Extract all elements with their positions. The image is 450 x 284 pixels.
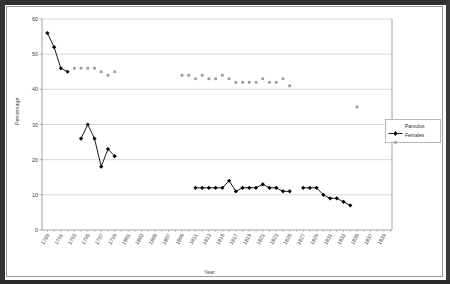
- scan-edge-left: [0, 0, 5, 284]
- chart-plot-area: 0102030405060178917911793179517971799180…: [7, 7, 444, 278]
- data-point: [107, 74, 110, 77]
- y-tick-label: 20: [32, 157, 38, 163]
- y-tick-label: 40: [32, 86, 38, 92]
- x-tick-label: 1831: [322, 232, 333, 245]
- legend-key-parvulos-diamond-icon: [388, 123, 403, 130]
- data-point: [261, 182, 265, 186]
- data-point: [65, 70, 69, 74]
- data-point: [348, 203, 352, 207]
- data-point: [328, 196, 332, 200]
- data-point: [240, 186, 244, 190]
- data-point: [247, 186, 251, 190]
- scan-edge-bottom: [0, 280, 450, 284]
- data-point: [93, 67, 96, 70]
- x-tick-label: 1815: [214, 232, 225, 245]
- data-point: [228, 77, 231, 80]
- y-tick-label: 10: [32, 192, 38, 198]
- series-parvulos: [45, 31, 352, 208]
- data-point: [335, 196, 339, 200]
- data-point: [194, 77, 197, 80]
- data-point: [86, 122, 90, 126]
- legend-label-females: Females: [405, 132, 424, 139]
- data-point: [282, 77, 285, 80]
- x-tick-label: 1793: [66, 232, 77, 245]
- data-point: [99, 165, 103, 169]
- data-point: [208, 77, 211, 80]
- data-point: [193, 186, 197, 190]
- x-tick-label: 1789: [39, 232, 50, 245]
- x-tick-label: 1817: [228, 232, 239, 245]
- x-tick-label: 1827: [295, 232, 306, 245]
- x-tick-label: 1811: [188, 232, 199, 245]
- data-point: [80, 67, 83, 70]
- x-tick-label: 1823: [268, 232, 279, 245]
- scan-edge-right: [446, 0, 450, 284]
- data-point: [341, 200, 345, 204]
- data-point: [234, 81, 237, 84]
- data-point: [113, 70, 116, 73]
- x-tick-label: 1807: [161, 232, 172, 245]
- data-point: [100, 70, 103, 73]
- legend-key-females-square-icon: [388, 132, 403, 139]
- data-point: [207, 186, 211, 190]
- x-tick-label: 1803: [134, 232, 145, 245]
- data-point: [79, 136, 83, 140]
- y-tick-label: 50: [32, 51, 38, 57]
- x-tick-label: 1835: [349, 232, 360, 245]
- x-tick-label: 1837: [363, 232, 374, 245]
- chart-container: 0102030405060178917911793179517971799180…: [6, 6, 443, 277]
- x-tick-label: 1825: [282, 232, 293, 245]
- chart-legend: Parvulos Females: [385, 119, 441, 143]
- legend-item-parvulos: Parvulos: [388, 122, 437, 131]
- series-females: [73, 67, 358, 108]
- data-point: [86, 67, 89, 70]
- data-point: [73, 67, 76, 70]
- scanned-page-frame: 0102030405060178917911793179517971799180…: [0, 0, 450, 284]
- data-point: [52, 45, 56, 49]
- data-point: [187, 74, 190, 77]
- data-point: [200, 186, 204, 190]
- data-point: [308, 186, 312, 190]
- data-point: [241, 81, 244, 84]
- data-point: [301, 186, 305, 190]
- y-tick-label: 30: [32, 122, 38, 128]
- data-point: [255, 81, 258, 84]
- x-tick-label: 1813: [201, 232, 212, 245]
- data-point: [201, 74, 204, 77]
- data-point: [274, 186, 278, 190]
- x-tick-label: 1839: [376, 232, 387, 245]
- x-tick-label: 1821: [255, 232, 266, 245]
- data-point: [267, 186, 271, 190]
- x-tick-label: 1801: [120, 232, 131, 245]
- data-point: [181, 74, 184, 77]
- data-point: [214, 186, 218, 190]
- legend-label-parvulos: Parvulos: [405, 123, 424, 130]
- data-point: [59, 66, 63, 70]
- x-tick-label: 1809: [174, 232, 185, 245]
- y-tick-label: 0: [35, 227, 38, 233]
- x-tick-label: 1805: [147, 232, 158, 245]
- data-point: [261, 77, 264, 80]
- data-point: [254, 186, 258, 190]
- x-tick-label: 1833: [336, 232, 347, 245]
- x-tick-label: 1799: [107, 232, 118, 245]
- data-point: [221, 74, 224, 77]
- data-point: [268, 81, 271, 84]
- data-point: [45, 31, 49, 35]
- data-point: [275, 81, 278, 84]
- scan-edge-top: [0, 0, 450, 5]
- x-tick-label: 1791: [53, 232, 64, 245]
- data-point: [288, 84, 291, 87]
- data-point: [356, 106, 359, 109]
- data-point: [288, 189, 292, 193]
- data-point: [248, 81, 251, 84]
- x-axis-title: Year: [204, 269, 215, 275]
- x-tick-label: 1797: [93, 232, 104, 245]
- x-tick-label: 1795: [80, 232, 91, 245]
- data-point: [92, 136, 96, 140]
- y-tick-label: 60: [32, 16, 38, 22]
- data-point: [281, 189, 285, 193]
- data-point: [214, 77, 217, 80]
- x-tick-label: 1819: [241, 232, 252, 245]
- x-tick-label: 1829: [309, 232, 320, 245]
